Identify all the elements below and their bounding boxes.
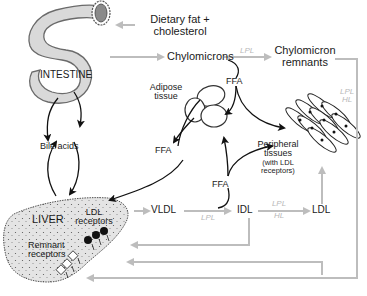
ldl-receptors-line2: receptors: [74, 217, 114, 226]
dietary-line2: cholesterol: [141, 26, 219, 38]
intestine-label: INTESTINE: [40, 70, 92, 81]
dietary-fat-label: Dietary fat + cholesterol: [141, 14, 219, 37]
dietary-line1: Dietary fat +: [141, 14, 219, 26]
bile-acids-label: Bile acids: [40, 142, 79, 151]
remnants-line1: Chylomicron: [272, 45, 338, 57]
adipose-tissue-label: Adipose tissue: [146, 83, 186, 102]
remnant-receptors-line2: receptors: [28, 250, 66, 259]
enzyme-lpl-idl: LPL: [271, 200, 287, 208]
remnant-receptors-label: Remnant receptors: [28, 241, 66, 260]
enzymes-remnant: LPL HL: [340, 88, 354, 105]
idl-label: IDL: [237, 205, 253, 216]
ffa-top-label: FFA: [226, 77, 243, 86]
enzyme-hl-idl: HL: [271, 212, 287, 220]
enzymes-idl: LPL HL: [271, 200, 287, 221]
ldl-label: LDL: [312, 205, 330, 216]
ffa-vldl-label: FFA: [212, 180, 229, 189]
remnants-line2: remnants: [272, 57, 338, 69]
enzyme-lpl-chylo: LPL: [240, 47, 254, 55]
enzyme-hl-remnant: HL: [340, 96, 354, 104]
liver-label: LIVER: [32, 214, 64, 226]
chylomicron-remnants-label: Chylomicron remnants: [272, 45, 338, 68]
vldl-label: VLDL: [151, 205, 176, 216]
peripheral-line4: receptors): [250, 167, 306, 175]
intestine-icon: [25, 1, 110, 103]
chylomicrons-label: Chylomicrons: [167, 51, 234, 63]
ffa-adipose-label: FFA: [155, 146, 172, 155]
ldl-receptors-label: LDL receptors: [74, 208, 114, 227]
adipose-line2: tissue: [146, 92, 186, 101]
peripheral-tissues-label: Peripheral tissues (with LDL receptors): [250, 140, 306, 175]
enzyme-lpl-vldl: LPL: [201, 214, 215, 222]
